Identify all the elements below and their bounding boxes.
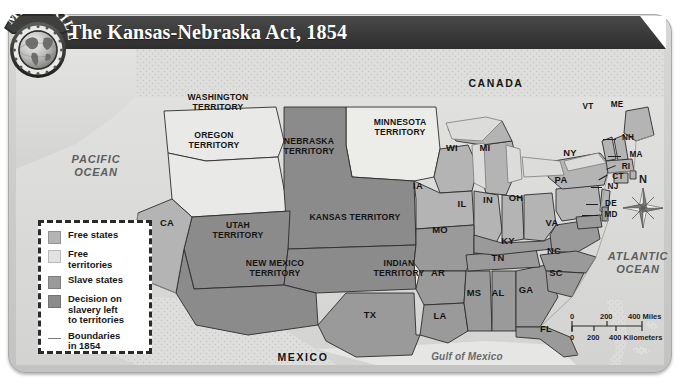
legend-item-boundaries: Boundariesin 1854 bbox=[48, 331, 143, 352]
label-state-vt: VT bbox=[577, 102, 599, 111]
label-state-ny: NY bbox=[557, 147, 583, 158]
legend-item-decision-territories: Decision onslavery leftto territories bbox=[48, 294, 143, 326]
legend-item-free-states: Free states bbox=[48, 230, 143, 244]
leader-md bbox=[582, 215, 598, 216]
scale-miles-tick-2: 400 Miles bbox=[628, 312, 661, 321]
scale-miles-tick-0: 0 bbox=[570, 312, 574, 321]
label-state-nh: NH bbox=[616, 133, 640, 142]
label-utah-territory: UTAHTERRITORY bbox=[192, 221, 284, 240]
label-minnesota-territory: MINNESOTATERRITORY bbox=[352, 118, 448, 137]
label-state-il: IL bbox=[450, 198, 474, 209]
map-skill-page: PACIFICOCEAN ATLANTICOCEAN Gulf of Mexic… bbox=[0, 0, 680, 387]
map-skill-badge: MAP SKILL bbox=[2, 4, 74, 80]
scale-miles-tick-1: 200 bbox=[600, 312, 613, 321]
leader-ma bbox=[608, 156, 621, 157]
label-state-ia: IA bbox=[406, 180, 430, 191]
leader-nj bbox=[591, 187, 602, 188]
label-oregon-territory: OREGONTERRITORY bbox=[166, 131, 262, 150]
label-state-mo: MO bbox=[427, 224, 453, 235]
legend-label-free-states: Free states bbox=[68, 230, 118, 241]
label-kansas-territory: KANSAS TERRITORY bbox=[296, 213, 414, 223]
label-state-oh: OH bbox=[503, 192, 529, 203]
label-state-la: LA bbox=[428, 310, 452, 321]
label-state-fl: FL bbox=[535, 323, 557, 334]
label-gulf-of-mexico: Gulf of Mexico bbox=[412, 351, 522, 362]
label-state-sc: SC bbox=[544, 267, 568, 278]
compass-north-label: N bbox=[639, 173, 647, 185]
label-state-ky: KY bbox=[495, 235, 521, 246]
label-state-tn: TN bbox=[486, 252, 510, 263]
label-pacific-ocean: PACIFICOCEAN bbox=[50, 153, 142, 179]
legend-label-boundaries: Boundariesin 1854 bbox=[68, 331, 120, 352]
legend-item-free-territories: Freeterritories bbox=[48, 249, 143, 270]
label-mexico: MEXICO bbox=[248, 351, 358, 363]
label-state-ga: GA bbox=[513, 284, 539, 295]
label-state-ms: MS bbox=[461, 287, 487, 298]
leader-nh bbox=[603, 139, 616, 140]
label-state-ma: MA bbox=[623, 150, 649, 159]
label-state-in: IN bbox=[476, 194, 500, 205]
legend-swatch-free-states bbox=[48, 231, 61, 244]
label-state-mi: MI bbox=[473, 142, 497, 153]
scale-km-tick-2: 400 Kilometers bbox=[609, 333, 662, 342]
legend-swatch-decision-territories bbox=[48, 295, 61, 308]
label-state-nc: NC bbox=[541, 245, 567, 256]
legend-label-free-territories: Freeterritories bbox=[68, 249, 112, 270]
legend-swatch-free-territories bbox=[48, 250, 61, 263]
label-state-me: ME bbox=[605, 100, 629, 109]
label-nebraska-territory: NEBRASKATERRITORY bbox=[260, 137, 358, 156]
legend-swatch-boundaries bbox=[48, 338, 61, 339]
label-atlantic-ocean: ATLANTICOCEAN bbox=[596, 250, 672, 276]
legend-swatch-slave-states bbox=[48, 276, 61, 289]
map-frame: PACIFICOCEAN ATLANTICOCEAN Gulf of Mexic… bbox=[8, 14, 672, 373]
label-state-va: VA bbox=[539, 217, 565, 228]
label-state-ar: AR bbox=[426, 267, 450, 278]
label-state-wi: WI bbox=[440, 142, 464, 153]
label-washington-territory: WASHINGTONTERRITORY bbox=[164, 93, 272, 112]
label-state-pa: PA bbox=[548, 174, 574, 185]
leader-de bbox=[586, 204, 598, 205]
legend-label-decision-territories: Decision onslavery leftto territories bbox=[68, 294, 124, 326]
scale-km-tick-1: 200 bbox=[587, 333, 600, 342]
map-legend: Free states Freeterritories Slave states… bbox=[38, 220, 152, 354]
scale-km-tick-0: 0 bbox=[570, 333, 574, 342]
legend-item-slave-states: Slave states bbox=[48, 275, 143, 289]
legend-label-slave-states: Slave states bbox=[68, 275, 123, 286]
page-title: The Kansas-Nebraska Act, 1854 bbox=[68, 16, 347, 49]
label-state-ca: CA bbox=[155, 217, 179, 228]
label-state-al: AL bbox=[486, 287, 510, 298]
label-canada: CANADA bbox=[438, 77, 554, 89]
scale-bar: 0 200 400 Miles 0 200 400 Kilometers bbox=[568, 310, 664, 344]
label-state-tx: TX bbox=[358, 309, 382, 320]
compass-rose: N bbox=[620, 170, 666, 232]
label-new-mexico-territory: NEW MEXICOTERRITORY bbox=[220, 259, 330, 278]
